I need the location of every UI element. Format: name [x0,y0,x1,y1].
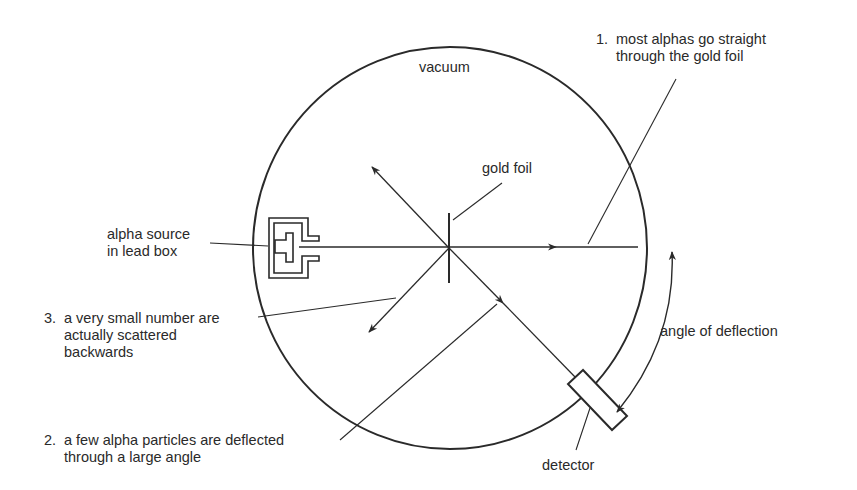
note-2-line2: through a large angle [64,449,201,465]
detector-icon [568,370,627,430]
alpha-source-label: alpha source in lead box [107,226,190,260]
detector-label: detector [542,457,594,474]
note-3-line1: a very small number are [64,310,220,326]
note-2-line1: a few alpha particles are deflected [64,432,284,448]
note-1-line1: most alphas go straight [616,31,766,47]
alpha-source-line2: in lead box [107,243,190,260]
note-1-line2: through the gold foil [616,48,743,64]
deflected-ray [449,248,503,303]
leader-note-2 [340,304,497,440]
leader-note-1 [588,79,676,244]
leader-gold-foil [453,183,502,220]
gold-foil-label: gold foil [482,160,532,177]
note-2-number: 2. [44,432,64,449]
note-1: 1.most alphas go straight through the go… [596,31,766,65]
note-3-line2: actually scattered [64,327,177,343]
note-3-line3: backwards [64,344,133,360]
alpha-source-line1: alpha source [107,226,190,243]
leader-detector [576,408,590,450]
leader-alpha-source [210,243,268,246]
deflected-ray-end [503,303,576,378]
note-3-number: 3. [44,310,64,327]
note-2: 2.a few alpha particles are deflected th… [44,432,284,466]
vacuum-label: vacuum [419,59,470,76]
note-1-number: 1. [596,31,616,48]
backscatter-ray-down [369,248,449,332]
lead-box-icon [269,218,319,278]
note-3: 3.a very small number are actually scatt… [44,310,220,361]
backscatter-ray-up [372,167,449,248]
angle-of-deflection-label: angle of deflection [660,323,778,340]
leader-note-3 [258,298,396,317]
